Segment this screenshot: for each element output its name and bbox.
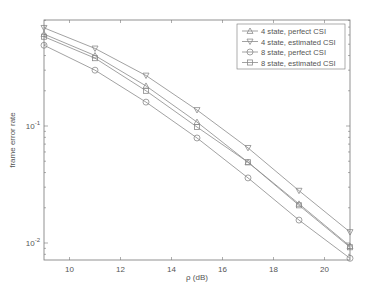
x-axis-label: ρ (dB) bbox=[186, 273, 208, 282]
y-tick-label: 10-1 bbox=[26, 120, 41, 131]
x-tick-label: 16 bbox=[218, 265, 227, 274]
y-axis-label: frame error rate bbox=[8, 112, 17, 168]
x-tick-label: 18 bbox=[269, 265, 278, 274]
legend: 4 state, perfect CSI4 state, estimated C… bbox=[237, 24, 345, 69]
legend-label: 8 state, estimated CSI bbox=[261, 59, 336, 68]
x-tick-label: 10 bbox=[65, 265, 74, 274]
legend-label: 4 state, estimated CSI bbox=[261, 38, 336, 47]
y-tick-label: 10-2 bbox=[26, 237, 41, 248]
series bbox=[41, 42, 353, 261]
x-tick-label: 20 bbox=[320, 265, 329, 274]
chart: 10121416182010-110-2 4 state, perfect CS… bbox=[0, 0, 368, 298]
series-line bbox=[44, 45, 350, 258]
legend-label: 8 state, perfect CSI bbox=[261, 48, 326, 57]
legend-label: 4 state, perfect CSI bbox=[261, 27, 326, 36]
x-tick-label: 14 bbox=[167, 265, 176, 274]
x-tick-label: 12 bbox=[116, 265, 125, 274]
